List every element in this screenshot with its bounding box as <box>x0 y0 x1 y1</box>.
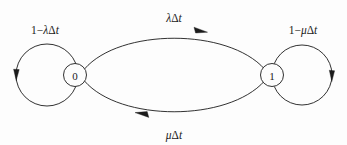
diagram-canvas: 0 1 1−λΔt λΔt μΔt 1−μΔt <box>0 0 347 145</box>
label-self-loop-1-time: t <box>314 24 318 36</box>
bottom-arc-path <box>85 81 265 112</box>
self-loop-right-arrowhead <box>329 70 334 81</box>
top-arc-arrowhead <box>194 27 208 33</box>
label-self-loop-state-1: 1−μΔt <box>289 24 318 37</box>
top-arc-path <box>85 38 265 69</box>
label-self-loop-0-delta: Δ <box>48 24 55 36</box>
label-top-arc: λΔt <box>165 12 182 24</box>
label-self-loop-0-time: t <box>56 24 60 36</box>
transition-one-to-zero <box>85 81 265 117</box>
label-self-loop-1-delta: Δ <box>307 24 314 36</box>
bottom-arc-arrowhead <box>135 112 149 118</box>
node-state-1[interactable]: 1 <box>261 64 284 87</box>
label-bottom-arc: μΔt <box>165 129 183 142</box>
label-bottom-arc-delta: Δ <box>172 129 179 141</box>
node-state-0[interactable]: 0 <box>64 64 87 87</box>
label-bottom-arc-time: t <box>179 129 183 141</box>
label-top-arc-time: t <box>179 12 183 24</box>
self-loop-left-arrowhead <box>14 69 20 80</box>
transition-zero-to-one <box>85 27 265 69</box>
label-self-loop-state-0: 1−λΔt <box>31 24 60 36</box>
node-state-1-label: 1 <box>269 70 275 82</box>
label-top-arc-delta: Δ <box>171 12 178 24</box>
node-state-0-label: 0 <box>72 70 78 82</box>
markov-chain-diagram: 0 1 1−λΔt λΔt μΔt 1−μΔt <box>0 0 347 145</box>
